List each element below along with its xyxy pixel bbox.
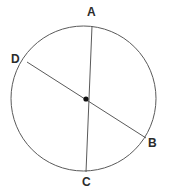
point-label-a: A (87, 6, 96, 18)
geometry-figure: A B C D (0, 0, 171, 194)
center-point-dot (83, 96, 88, 101)
point-label-c: C (82, 176, 91, 188)
geometry-canvas (0, 0, 171, 194)
point-label-b: B (148, 137, 157, 149)
point-label-d: D (11, 53, 20, 65)
